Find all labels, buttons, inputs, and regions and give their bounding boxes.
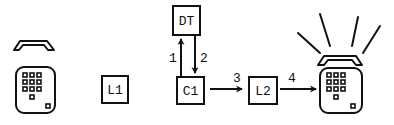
- callee-phone-icon: [298, 14, 380, 113]
- node-C1-label: C1: [183, 84, 199, 99]
- edge-1-arrow: 1: [169, 39, 181, 76]
- edge-1-label: 1: [169, 51, 177, 66]
- edge-2-label: 2: [200, 51, 208, 66]
- edge-3-arrow: 3: [210, 71, 242, 89]
- keypad-icon: [23, 73, 50, 108]
- edge-2-arrow: 2: [195, 36, 208, 73]
- node-L1-label: L1: [107, 83, 123, 98]
- handset-icon: [318, 56, 362, 65]
- handset-icon: [14, 41, 54, 50]
- edge-4-label: 4: [288, 71, 296, 86]
- node-C1: C1: [177, 77, 204, 104]
- phone-body: [16, 67, 55, 113]
- edge-4-arrow: 4: [280, 71, 316, 89]
- edge-3-label: 3: [233, 71, 241, 86]
- node-DT: DT: [173, 6, 200, 35]
- keypad-icon: [327, 73, 355, 108]
- caller-phone-icon: [14, 41, 55, 113]
- diagram-canvas: L1 DT C1 1 2 3 L2 4: [0, 0, 394, 125]
- node-DT-label: DT: [179, 14, 195, 29]
- ringing-lines-icon: [298, 14, 380, 53]
- node-L1: L1: [102, 76, 128, 103]
- node-L2: L2: [249, 77, 277, 104]
- node-L2-label: L2: [255, 84, 271, 99]
